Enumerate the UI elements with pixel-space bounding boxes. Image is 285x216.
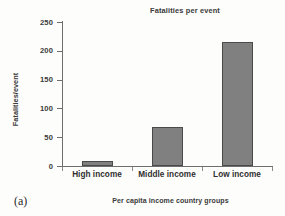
y-axis-tick-label: 200 [22,46,53,55]
y-axis-tick-label: 250 [22,18,53,27]
x-axis-category-label: Middle income [132,170,202,179]
chart-title: Fatalities per event [105,6,265,15]
y-axis-tick [57,80,62,81]
x-axis-tick [272,167,273,171]
x-axis-category-label: High income [62,170,132,179]
y-axis-tick [57,22,62,23]
figure-container: Fatalities per event Fatalities/event Pe… [0,0,285,216]
x-axis-title: Per capita income country groups [78,197,263,204]
y-axis-tick-label: 150 [22,75,53,84]
y-axis-tick [57,108,62,109]
y-axis-line [62,21,63,167]
y-axis-tick [57,51,62,52]
bar [222,42,253,166]
y-axis-title: Fatalities/event [11,58,20,142]
y-axis-tick [57,137,62,138]
x-axis-category-label: Low income [202,170,272,179]
figure-label: (a) [14,194,27,209]
y-axis-tick-label: 50 [22,133,53,142]
bar [82,161,113,166]
y-axis-tick-label: 0 [22,162,53,171]
y-axis-tick-label: 100 [22,104,53,113]
x-axis-line [62,166,273,167]
bar [152,127,183,166]
